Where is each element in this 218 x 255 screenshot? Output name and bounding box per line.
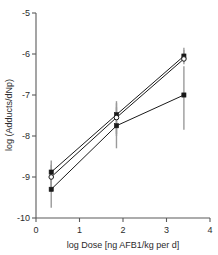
x-tick-label: 0 [33, 225, 38, 235]
x-tick-label: 1 [77, 225, 82, 235]
chart-canvas: -10-9-8-7-6-5 01234 log Dose [ng AFB1/kg… [0, 0, 218, 255]
data-point-open-circle [49, 175, 54, 180]
x-axis-tick-labels: 01234 [33, 225, 212, 235]
data-point-filled-square [114, 124, 118, 128]
series-lines [51, 56, 184, 189]
y-tick-label: -6 [22, 49, 30, 59]
y-tick-label: -5 [22, 8, 30, 18]
x-axis-ticks [36, 218, 210, 222]
x-tick-label: 3 [164, 225, 169, 235]
series-line-series-3 [51, 95, 184, 189]
y-tick-label: -9 [22, 172, 30, 182]
y-axis-ticks [32, 13, 36, 218]
x-tick-label: 4 [207, 225, 212, 235]
data-point-filled-square [49, 170, 53, 174]
x-axis-title: log Dose [ng AFB1/kg per d] [67, 240, 180, 250]
y-tick-label: -8 [22, 131, 30, 141]
chart-figure: -10-9-8-7-6-5 01234 log Dose [ng AFB1/kg… [0, 0, 218, 255]
y-axis-tick-labels: -10-9-8-7-6-5 [17, 8, 30, 223]
data-point-open-circle [182, 57, 187, 62]
y-tick-label: -7 [22, 90, 30, 100]
x-tick-label: 2 [120, 225, 125, 235]
y-tick-label: -10 [17, 213, 30, 223]
data-point-filled-square [49, 187, 53, 191]
data-point-filled-square [182, 93, 186, 97]
data-point-open-circle [114, 115, 119, 120]
y-axis-title: log (Adducts/dNp) [4, 79, 14, 151]
